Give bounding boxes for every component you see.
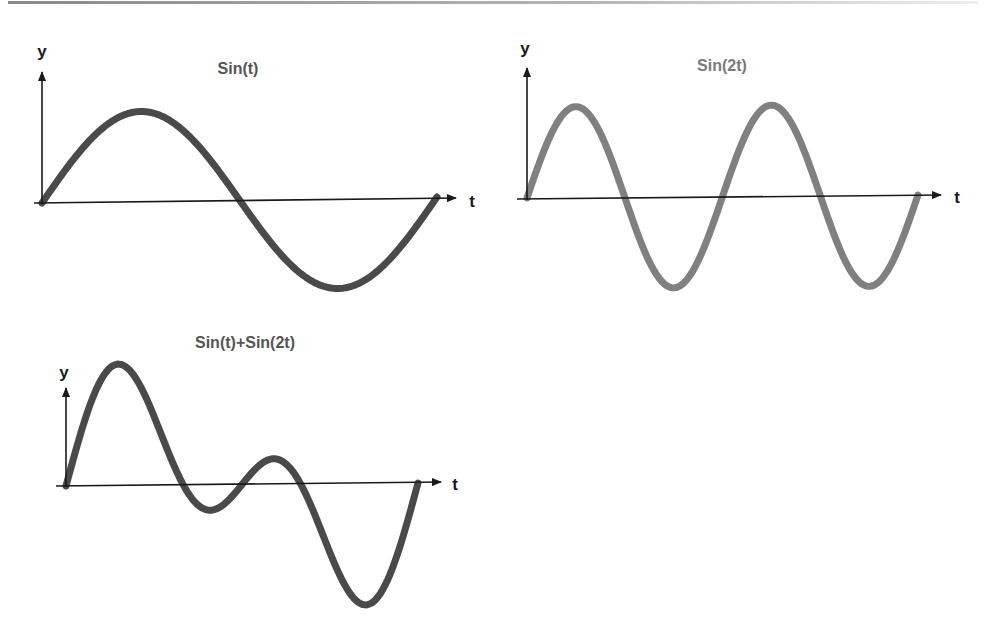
y-axis-label: y <box>59 363 69 382</box>
t-axis <box>517 195 941 199</box>
figure-canvas: y t Sin(t) y t Sin(2t) y t Sin(t)+Sin(2t… <box>0 0 985 636</box>
t-axis-label: t <box>954 188 960 207</box>
panel-title: Sin(t) <box>218 60 259 77</box>
panel-sin-2t: y t Sin(2t) <box>517 39 960 288</box>
panel-sum: y t Sin(t)+Sin(2t) <box>56 334 458 605</box>
t-axis-label: t <box>469 192 475 211</box>
y-axis-label: y <box>520 39 530 58</box>
t-axis-label: t <box>452 475 458 494</box>
panel-title: Sin(t)+Sin(2t) <box>195 334 295 351</box>
panel-title: Sin(2t) <box>697 57 747 74</box>
panel-sin-t: y t Sin(t) <box>34 42 475 289</box>
t-axis <box>56 482 441 486</box>
y-axis-label: y <box>37 42 47 61</box>
